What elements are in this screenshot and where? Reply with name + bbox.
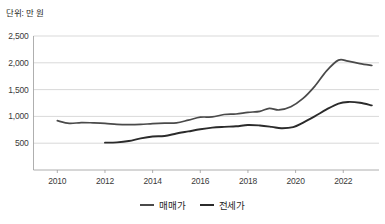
legend-label: 전세가 [219, 198, 245, 212]
series-line-1 [57, 60, 372, 125]
x-axis-tick-label: 2018 [239, 176, 258, 186]
x-axis-tick-label: 2012 [96, 176, 115, 186]
plot-area: 2,5002,0001,5001,000500 2010201220142016… [0, 0, 385, 224]
y-axis-tick-label: 1,500 [8, 85, 29, 95]
x-axis-tick-labels: 2010201220142016201820202022 [48, 176, 353, 186]
x-axis-tick-label: 2016 [191, 176, 210, 186]
x-axis-tick-label: 2020 [287, 176, 306, 186]
y-axis-tick-label: 1,000 [8, 111, 29, 121]
chart-legend: 매매가전세가 [0, 198, 385, 212]
axis-lines [34, 36, 380, 173]
legend-label: 매매가 [159, 198, 185, 212]
legend-item-1[interactable]: 매매가 [140, 198, 185, 212]
y-axis-tick-label: 500 [15, 138, 29, 148]
x-axis-tick-label: 2014 [144, 176, 163, 186]
legend-line-swatch [140, 204, 154, 206]
data-series-group [57, 60, 372, 143]
series-line-2 [105, 102, 372, 143]
line-chart: 단위: 만 원 2,5002,0001,5001,000500 20102012… [0, 0, 385, 224]
x-axis-tick-label: 2010 [48, 176, 67, 186]
gridlines [34, 36, 380, 143]
legend-item-2[interactable]: 전세가 [200, 198, 245, 212]
legend-line-swatch [200, 204, 214, 206]
y-axis-tick-label: 2,500 [8, 31, 29, 41]
x-axis-tick-label: 2022 [334, 176, 353, 186]
y-axis-tick-label: 2,000 [8, 58, 29, 68]
y-axis-tick-labels: 2,5002,0001,5001,000500 [8, 31, 29, 148]
